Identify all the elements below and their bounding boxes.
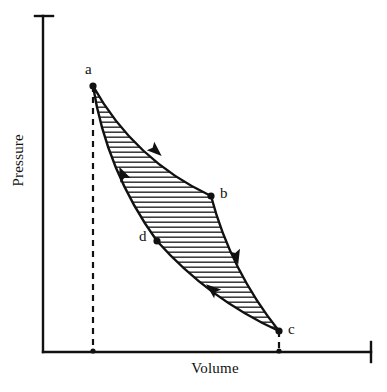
point-label-b: b — [220, 186, 228, 201]
point-label-d: d — [139, 229, 147, 244]
dashed-drop-foot-c — [276, 348, 281, 353]
pv-diagram-figure: a b c d Pressure Volume — [0, 0, 387, 392]
point-label-a: a — [85, 62, 92, 77]
y-axis-title: Pressure — [10, 151, 27, 187]
point-label-c: c — [288, 322, 295, 337]
vertex-marker-c — [275, 327, 282, 334]
vertex-marker-b — [207, 192, 214, 199]
vertex-marker-a — [89, 82, 96, 89]
pv-diagram-canvas — [0, 0, 387, 392]
shaded-cycle-region — [93, 86, 279, 331]
vertex-marker-d — [153, 237, 160, 244]
x-axis-title: Volume — [150, 360, 280, 377]
dashed-drop-foot-a — [90, 348, 95, 353]
